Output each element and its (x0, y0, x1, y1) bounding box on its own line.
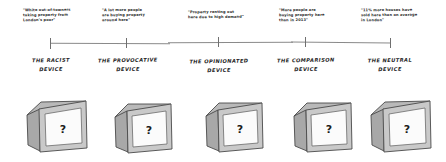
device-question-mark: ? (326, 123, 332, 136)
device-cube-neutral: ? (368, 96, 440, 158)
axis-line-segment-2 (168, 42, 293, 44)
axis-tick-racist (50, 38, 51, 49)
device-label-racist: THE RACIST DEVICE (16, 55, 86, 74)
device-cube-opinionated: ? (203, 98, 275, 160)
device-label-neutral: THE NEUTRAL DEVICE (354, 55, 426, 74)
device-question-mark: ? (404, 123, 410, 136)
axis-tick-opinionated (218, 37, 219, 47)
axis-tick-neutral (390, 38, 391, 48)
quote-racist: "White out-of-towners taking property fr… (23, 8, 75, 24)
device-cube-comparison: ? (291, 98, 363, 160)
device-label-provocative: THE PROVOCATIVE DEVICE (91, 55, 165, 74)
framing-devices-diagram: "White out-of-towners taking property fr… (0, 0, 446, 162)
quote-opinionated: "Property renting out here due to high d… (188, 10, 252, 21)
axis-tick-comparison (305, 37, 306, 47)
axis-tick-provocative (126, 38, 127, 48)
device-question-mark: ? (60, 123, 66, 136)
quote-comparison: "More people are buying property here th… (279, 8, 333, 24)
axis-line-segment-1 (50, 43, 170, 45)
device-cube-racist: ? (24, 96, 96, 158)
device-cube-provocative: ? (112, 99, 184, 161)
device-label-comparison: THE COMPARISON DEVICE (269, 55, 343, 74)
device-question-mark: ? (237, 123, 243, 136)
quote-provocative: "A lot more people are buying property a… (102, 8, 154, 24)
device-question-mark: ? (146, 124, 152, 137)
device-label-opinionated: THE OPINIONATED DEVICE (182, 56, 256, 75)
quote-neutral: "11% more houses have sold here than on … (361, 8, 427, 24)
